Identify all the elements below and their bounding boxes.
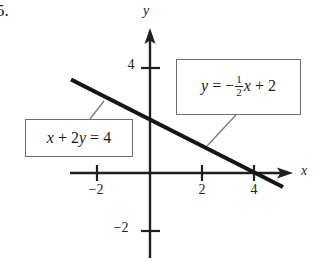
standard-rhs: 4 [103,129,111,146]
fraction-numerator: 1 [235,74,243,86]
x-tick-label-2: 2 [185,182,219,198]
equation-slope-intercept: y = −12x + 2 [201,75,276,99]
fraction-denominator: 2 [235,86,243,99]
fraction-one-half: 12 [235,74,243,98]
y-axis-label: y [143,3,149,19]
x-axis-label: x [301,163,307,179]
callout-slope-intercept: y = −12x + 2 [176,59,301,115]
y-tick-label-4: 4 [114,57,148,73]
leader-line-slope-intercept [207,115,236,146]
y-tick-label--2: −2 [104,220,138,236]
standard-lhs-x: x [47,129,54,146]
x-tick-label--2: −2 [79,182,113,198]
slope-constant: 2 [268,77,276,94]
graph-figure: 5. y x −2 2 4 4 −2 x + 2y = 4 y = [0,0,320,267]
slope-minus: − [225,77,234,94]
x-tick-label-4: 4 [237,182,271,198]
slope-var-x: x [244,77,251,94]
callout-standard-form: x + 2y = 4 [25,119,133,157]
standard-equals: = [90,129,99,146]
standard-coef: 2 [71,129,79,146]
slope-equals: = [212,77,221,94]
leader-line-standard-form [90,101,104,119]
standard-plus-sign: + [58,129,67,146]
slope-plus: + [255,77,264,94]
equation-standard-form: x + 2y = 4 [47,130,111,146]
